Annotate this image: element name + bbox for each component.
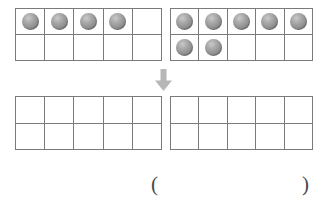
answer-blank-field[interactable] <box>160 174 302 196</box>
ten-frame-cell[interactable] <box>256 97 284 124</box>
arrow-down-glyph <box>153 69 174 92</box>
arrow-down-icon <box>153 69 174 92</box>
answer-close-paren: ) <box>302 174 309 195</box>
ten-frame-cell[interactable] <box>74 9 103 35</box>
ten-frame-cell[interactable] <box>228 97 256 124</box>
ten-frame-cell[interactable] <box>256 124 284 151</box>
ten-frame-cell[interactable] <box>133 9 162 35</box>
ten-frame-cell[interactable] <box>256 9 284 35</box>
ten-frame-cell[interactable] <box>133 124 162 151</box>
counter-circle <box>109 13 126 30</box>
ten-frame-cell[interactable] <box>16 9 45 35</box>
ten-frame-cell[interactable] <box>228 124 256 151</box>
ten-frame-cell[interactable] <box>171 124 199 151</box>
counter-circle <box>51 13 68 30</box>
ten-frame-cell[interactable] <box>285 97 313 124</box>
ten-frame-cell[interactable] <box>16 124 45 151</box>
ten-frame-cell[interactable] <box>45 9 74 35</box>
ten-frame-cell[interactable] <box>171 9 199 35</box>
counter-circle <box>205 13 222 30</box>
counter-circle <box>261 13 278 30</box>
ten-frame-cell[interactable] <box>104 124 133 151</box>
counter-circle <box>176 39 193 56</box>
ten-frame-cell[interactable] <box>74 124 103 151</box>
ten-frame-cell[interactable] <box>104 35 133 61</box>
ten-frame-cell[interactable] <box>285 9 313 35</box>
ten-frame-cell[interactable] <box>285 124 313 151</box>
ten-frame-cell[interactable] <box>199 35 227 61</box>
ten-frame-cell[interactable] <box>285 35 313 61</box>
ten-frame-cell[interactable] <box>171 35 199 61</box>
ten-frame-cell[interactable] <box>199 97 227 124</box>
ten-frame-cell[interactable] <box>45 124 74 151</box>
ten-frame-cell[interactable] <box>228 35 256 61</box>
counter-circle <box>205 39 222 56</box>
worksheet-page: ( ) <box>0 0 323 212</box>
ten-frame-cell[interactable] <box>133 97 162 124</box>
ten-frame-cell[interactable] <box>16 35 45 61</box>
ten-frame-cell[interactable] <box>45 35 74 61</box>
counter-circle <box>80 13 97 30</box>
ten-frame-top-left[interactable] <box>15 8 162 61</box>
ten-frame-cell[interactable] <box>256 35 284 61</box>
ten-frame-cell[interactable] <box>133 35 162 61</box>
ten-frame-cell[interactable] <box>104 9 133 35</box>
ten-frame-cell[interactable] <box>171 97 199 124</box>
ten-frame-cell[interactable] <box>16 97 45 124</box>
ten-frame-cell[interactable] <box>199 124 227 151</box>
counter-circle <box>290 13 307 30</box>
ten-frame-cell[interactable] <box>199 9 227 35</box>
ten-frame-cell[interactable] <box>104 97 133 124</box>
ten-frame-cell[interactable] <box>74 97 103 124</box>
ten-frame-cell[interactable] <box>228 9 256 35</box>
ten-frame-bottom-right[interactable] <box>170 96 313 150</box>
ten-frame-cell[interactable] <box>45 97 74 124</box>
counter-circle <box>176 13 193 30</box>
ten-frame-top-right[interactable] <box>170 8 313 61</box>
answer-open-paren: ( <box>151 174 158 195</box>
counter-circle <box>233 13 250 30</box>
ten-frame-cell[interactable] <box>74 35 103 61</box>
ten-frame-bottom-left[interactable] <box>15 96 162 150</box>
counter-circle <box>22 13 39 30</box>
